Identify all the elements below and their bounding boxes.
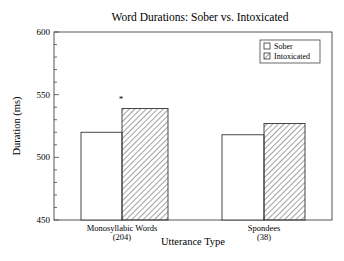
bars: * [81,94,305,220]
legend-label-intoxicated: Intoxicated [274,52,310,61]
legend-swatch-intoxicated [264,53,270,59]
y-tick-label: 500 [37,152,51,162]
chart-title: Word Durations: Sober vs. Intoxicated [112,11,289,23]
bar-chart: Word Durations: Sober vs. Intoxicated 45… [0,0,344,261]
bar-intoxicated-0 [122,108,168,220]
legend: Sober Intoxicated [260,40,320,63]
x-tick-count: (38) [257,232,271,242]
y-axis-label: Duration (ms) [11,96,23,156]
bar-intoxicated-1 [264,123,305,220]
significance-marker: * [119,94,124,104]
bar-sober-1 [222,135,264,220]
y-tick-label: 550 [37,90,51,100]
y-tick-label: 450 [37,215,51,225]
y-tick-label: 600 [37,27,51,37]
x-axis-label: Utterance Type [161,236,225,247]
y-axis: 450500550600 [37,27,60,225]
legend-label-sober: Sober [274,42,293,51]
x-tick-count: (204) [113,232,132,242]
legend-swatch-sober [264,43,270,49]
bar-sober-0 [81,132,122,220]
